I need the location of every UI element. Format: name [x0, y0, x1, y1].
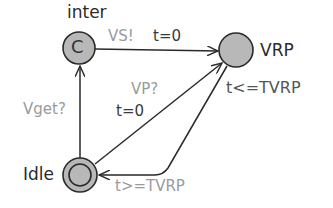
edge-idle-to-vrp[interactable]	[95, 63, 222, 164]
update-label-vp: t=0	[116, 104, 144, 119]
update-label-vs: t=0	[153, 29, 181, 44]
location-idle[interactable]	[63, 158, 97, 192]
location-name-vrp: VRP	[260, 42, 294, 59]
guard-label-return: t>=TVRP	[115, 179, 185, 194]
location-name-inter: inter	[67, 4, 107, 21]
location-name-idle: Idle	[23, 166, 54, 183]
committed-marker: C	[71, 38, 84, 56]
location-vrp[interactable]	[219, 33, 253, 67]
sync-label-vs: VS!	[108, 29, 134, 44]
sync-label-vget: Vget?	[23, 102, 66, 117]
sync-label-vp: VP?	[131, 82, 158, 97]
edge-inter-to-vrp[interactable]	[95, 49, 218, 51]
edge-vrp-to-idle[interactable]	[99, 66, 227, 175]
invariant-vrp: t<=TVRP	[226, 80, 301, 96]
